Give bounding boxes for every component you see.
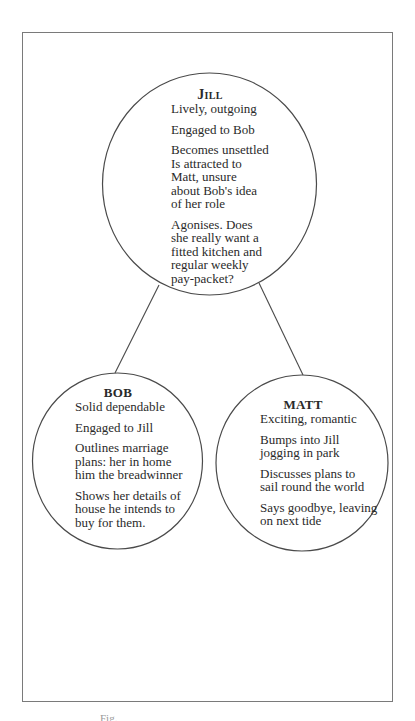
figure-caption: Fig. <box>100 712 117 721</box>
matt-note: Discusses plans to sail round the world <box>260 467 390 494</box>
jill-notes: Lively, outgoing Engaged to Bob Becomes … <box>171 102 311 292</box>
bob-note: Solid dependable <box>75 400 205 414</box>
matt-note: Bumps into Jill jogging in park <box>260 433 390 460</box>
jill-note: Engaged to Bob <box>171 123 311 137</box>
jill-note: Agonises. Does she really want a fitted … <box>171 218 311 286</box>
matt-note: Exciting, romantic <box>260 412 390 426</box>
bob-note: Outlines marriage plans: her in home him… <box>75 441 205 482</box>
matt-note: Says goodbye, leaving on next tide <box>260 501 390 528</box>
jill-title: Jill <box>170 88 250 102</box>
jill-note: Becomes unsettled Is attracted to Matt, … <box>171 143 311 211</box>
bob-title: BOB <box>78 386 158 400</box>
edge-jill-bob <box>115 285 159 373</box>
jill-note: Lively, outgoing <box>171 102 311 116</box>
bob-note: Shows her details of house he intends to… <box>75 489 205 530</box>
matt-title: MATT <box>263 398 343 412</box>
edge-jill-matt <box>259 283 303 375</box>
bob-notes: Solid dependable Engaged to Jill Outline… <box>75 400 205 536</box>
matt-notes: Exciting, romantic Bumps into Jill joggi… <box>260 412 390 535</box>
bob-note: Engaged to Jill <box>75 421 205 435</box>
